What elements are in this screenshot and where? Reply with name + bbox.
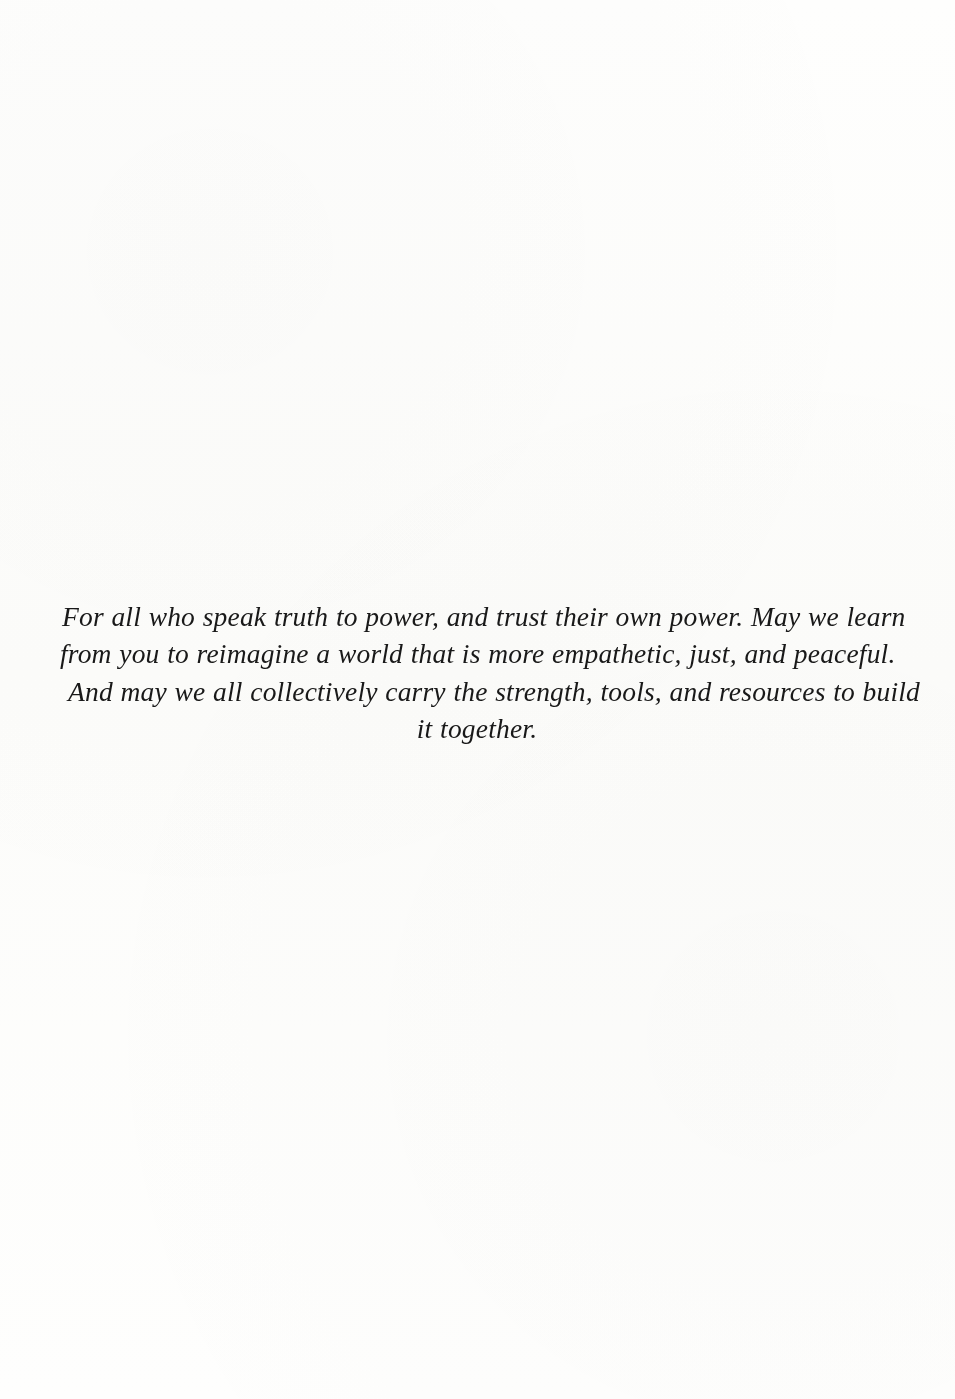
dedication-text-block: For all who speak truth to power, and tr… <box>58 598 896 748</box>
book-page: For all who speak truth to power, and tr… <box>0 0 955 1399</box>
dedication-line-3: And may we all collectively carry the st… <box>58 673 896 710</box>
blank-area-below-text <box>0 752 955 1399</box>
dedication-line-2: from you to reimagine a world that is mo… <box>58 635 896 672</box>
dedication-line-1: For all who speak truth to power, and tr… <box>58 598 896 635</box>
blank-area-above-text <box>0 0 955 598</box>
dedication-line-4: it together. <box>58 710 896 747</box>
